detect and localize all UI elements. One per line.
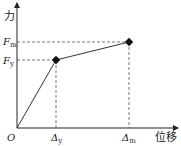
force-displacement-diagram: 力 Fm Fy O Δy Δm 位移 <box>0 0 181 146</box>
bilinear-curve <box>17 42 129 128</box>
fy-label: Fy <box>2 55 14 68</box>
x-axis-label: 位移 <box>155 130 177 144</box>
dm-label: Δm <box>121 132 136 145</box>
yield-point-marker <box>52 56 60 64</box>
origin-label: O <box>7 132 15 143</box>
max-point-marker <box>125 38 133 46</box>
dy-label: Δy <box>50 132 62 145</box>
y-axis-label: 力 <box>4 10 15 23</box>
fm-label: Fm <box>2 36 17 49</box>
